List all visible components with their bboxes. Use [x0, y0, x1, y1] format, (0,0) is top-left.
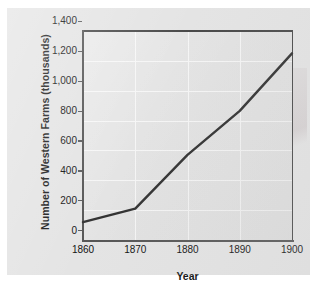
- y-tick-mark-1400: [78, 21, 82, 22]
- y-tick-label-1000: 1,000: [27, 75, 77, 86]
- x-tick-label-1870: 1870: [112, 244, 158, 255]
- y-tick-label-600: 600: [27, 135, 77, 146]
- y-tick-label-1200: 1,200: [27, 45, 77, 56]
- y-tick-label-200: 200: [27, 195, 77, 206]
- x-axis-title: Year: [83, 270, 292, 282]
- x-tick-label-1880: 1880: [165, 244, 211, 255]
- data-series-line: [83, 31, 292, 240]
- y-tick-label-1400: 1,400: [27, 15, 77, 26]
- x-tick-label-1890: 1890: [217, 244, 263, 255]
- x-tick-label-1860: 1860: [60, 244, 106, 255]
- figure-panel: Number of Western Farms (thousands) 0 20…: [7, 8, 310, 275]
- y-tick-label-800: 800: [27, 105, 77, 116]
- y-tick-label-400: 400: [27, 165, 77, 176]
- x-tick-label-1900: 1900: [269, 244, 315, 255]
- y-tick-label-0: 0: [27, 225, 77, 236]
